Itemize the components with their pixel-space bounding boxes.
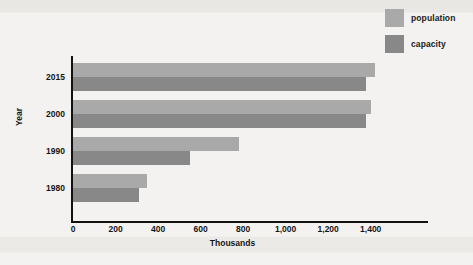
- legend-swatch-capacity: [385, 35, 404, 53]
- legend-item-population: population: [385, 9, 455, 27]
- x-tick-800: 800: [236, 224, 250, 234]
- bar-group-2015: [73, 63, 392, 91]
- chart-legend: population capacity: [385, 9, 455, 53]
- bar-group-1980: [73, 174, 392, 202]
- bar-capacity-2015: [73, 77, 366, 91]
- legend-swatch-population: [385, 9, 404, 27]
- bar-group-1990: [73, 137, 392, 165]
- y-tick-1980: 1980: [31, 183, 65, 193]
- bar-capacity-2000: [73, 114, 366, 128]
- y-tick-1990: 1990: [31, 146, 65, 156]
- y-tick-2015: 2015: [31, 72, 65, 82]
- x-axis-line: [71, 221, 428, 223]
- x-tick-200: 200: [108, 224, 122, 234]
- legend-label-capacity: capacity: [411, 39, 446, 49]
- legend-item-capacity: capacity: [385, 35, 455, 53]
- plot-area: [73, 56, 392, 221]
- bar-population-2015: [73, 63, 375, 77]
- x-tick-0: 0: [71, 224, 76, 234]
- bar-capacity-1980: [73, 188, 139, 202]
- y-axis-title: Year: [14, 108, 24, 126]
- x-tick-1200: 1,200: [318, 224, 339, 234]
- x-axis-title: Thousands: [73, 238, 392, 248]
- bar-population-1980: [73, 174, 147, 188]
- bar-capacity-1990: [73, 151, 190, 165]
- y-tick-2000: 2000: [31, 109, 65, 119]
- legend-label-population: population: [411, 13, 455, 23]
- x-tick-400: 400: [151, 224, 165, 234]
- bar-group-2000: [73, 100, 392, 128]
- x-tick-1000: 1,000: [275, 224, 296, 234]
- bar-chart-figure: population capacity 02004006008001,0001,…: [0, 0, 473, 265]
- bar-population-2000: [73, 100, 371, 114]
- x-tick-600: 600: [194, 224, 208, 234]
- x-tick-1400: 1,400: [360, 224, 381, 234]
- bar-population-1990: [73, 137, 239, 151]
